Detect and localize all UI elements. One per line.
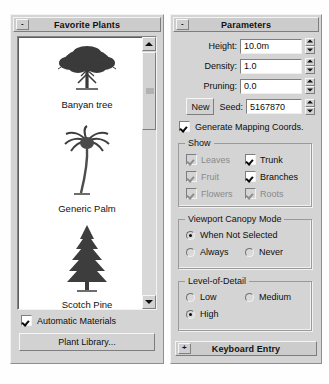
canopy-always-label: Always [200, 247, 229, 257]
seed-field[interactable]: 5167870 [246, 99, 302, 114]
list-item[interactable]: Scotch Pine [18, 223, 156, 310]
plant-parameters-screen: - Favorite Plants [0, 0, 329, 384]
list-item[interactable]: Banyan tree [18, 43, 156, 110]
canopy-always-radio[interactable] [186, 248, 195, 257]
seed-row: New Seed: 5167870 [177, 98, 315, 115]
list-item-label: Banyan tree [18, 99, 156, 110]
plant-list-scrollbar[interactable] [142, 37, 156, 309]
keyboard-entry-rollout-header[interactable]: + Keyboard Entry [175, 341, 317, 356]
viewport-canopy-mode-group: Viewport Canopy Mode When Not Selected A… [178, 219, 312, 269]
seed-label: Seed: [219, 102, 243, 112]
show-fruit-row: Fruit [186, 171, 219, 182]
keyboard-entry-expand-toggle[interactable]: + [178, 343, 191, 354]
show-trunk-row[interactable]: Trunk [245, 154, 283, 165]
lod-low-row[interactable]: Low [186, 292, 217, 302]
favorite-plants-collapse-toggle[interactable]: - [16, 19, 29, 30]
generate-mapping-row[interactable]: Generate Mapping Coords. [179, 121, 304, 132]
height-label: Height: [208, 41, 237, 51]
generate-mapping-checkbox[interactable] [179, 121, 190, 132]
density-field[interactable]: 1.0 [240, 59, 302, 74]
show-branches-checkbox[interactable] [245, 171, 256, 182]
favorite-plants-panel: - Favorite Plants [10, 14, 164, 364]
scroll-up-icon[interactable] [142, 37, 156, 51]
pruning-spinner[interactable] [305, 78, 315, 94]
show-fruit-label: Fruit [201, 172, 219, 182]
show-flowers-checkbox [186, 188, 197, 199]
parameters-rollout-header[interactable]: - Parameters [173, 17, 319, 32]
show-roots-row: Roots [245, 188, 284, 199]
lod-medium-row[interactable]: Medium [245, 292, 291, 302]
height-spinner[interactable] [305, 38, 315, 54]
show-branches-row[interactable]: Branches [245, 171, 298, 182]
canopy-when-not-selected-label: When Not Selected [200, 230, 278, 240]
conifer-tree-icon [57, 223, 117, 295]
automatic-materials-checkbox[interactable] [21, 315, 32, 326]
canopy-when-not-selected-radio[interactable] [186, 231, 195, 240]
favorite-plants-rollout-header[interactable]: - Favorite Plants [13, 17, 161, 32]
scroll-down-icon[interactable] [142, 295, 156, 309]
lod-low-radio[interactable] [186, 293, 195, 302]
lod-low-label: Low [200, 292, 217, 302]
pruning-label: Pruning: [203, 81, 237, 91]
broadleaf-tree-icon [54, 43, 120, 95]
show-leaves-label: Leaves [201, 155, 230, 165]
generate-mapping-label: Generate Mapping Coords. [195, 122, 304, 132]
show-group-title: Show [185, 138, 214, 148]
lod-high-radio[interactable] [186, 310, 195, 319]
show-trunk-label: Trunk [260, 155, 283, 165]
new-seed-button[interactable]: New [186, 98, 214, 115]
scrollbar-thumb[interactable] [142, 52, 156, 130]
show-roots-label: Roots [260, 189, 284, 199]
canopy-always-row[interactable]: Always [186, 247, 229, 257]
canopy-never-row[interactable]: Never [245, 247, 283, 257]
canopy-never-radio[interactable] [245, 248, 254, 257]
seed-spinner[interactable] [305, 99, 315, 115]
density-row: Density: 1.0 [177, 58, 315, 74]
lod-high-row[interactable]: High [186, 309, 219, 319]
list-item[interactable]: Generic Palm [18, 125, 156, 214]
density-label: Density: [204, 61, 237, 71]
parameters-title: Parameters [221, 20, 271, 30]
palm-tree-icon [56, 125, 118, 199]
plant-library-button-label: Plant Library... [58, 337, 115, 347]
keyboard-entry-title: Keyboard Entry [212, 344, 280, 354]
lod-medium-radio[interactable] [245, 293, 254, 302]
show-leaves-checkbox [186, 154, 197, 165]
height-field[interactable]: 10.0m [240, 39, 302, 54]
lod-high-label: High [200, 309, 219, 319]
automatic-materials-label: Automatic Materials [37, 316, 116, 326]
level-of-detail-group: Level-of-Detail Low Medium High [178, 281, 312, 331]
canopy-never-label: Never [259, 247, 283, 257]
lod-medium-label: Medium [259, 292, 291, 302]
favorite-plants-title: Favorite Plants [54, 20, 120, 30]
show-group: Show Leaves Trunk Fruit Branches Flowers [178, 143, 312, 207]
pruning-field[interactable]: 0.0 [240, 79, 302, 94]
scrollbar-grip [146, 88, 154, 95]
parameters-panel: - Parameters Height: 10.0m Density: 1.0 … [170, 14, 322, 364]
canopy-when-not-selected-row[interactable]: When Not Selected [186, 230, 278, 240]
favorite-plants-list[interactable]: Banyan tree [17, 36, 157, 310]
plant-library-button[interactable]: Plant Library... [19, 333, 155, 351]
density-spinner[interactable] [305, 58, 315, 74]
automatic-materials-row[interactable]: Automatic Materials [21, 315, 116, 326]
show-fruit-checkbox [186, 171, 197, 182]
show-branches-label: Branches [260, 172, 298, 182]
list-item-label: Generic Palm [18, 203, 156, 214]
pruning-row: Pruning: 0.0 [177, 78, 315, 94]
show-roots-checkbox [245, 188, 256, 199]
show-trunk-checkbox[interactable] [245, 154, 256, 165]
level-of-detail-title: Level-of-Detail [185, 276, 249, 286]
show-flowers-label: Flowers [201, 189, 233, 199]
parameters-collapse-toggle[interactable]: - [176, 19, 189, 30]
list-item-label: Scotch Pine [18, 299, 156, 310]
show-flowers-row: Flowers [186, 188, 233, 199]
viewport-canopy-mode-title: Viewport Canopy Mode [185, 214, 284, 224]
show-leaves-row: Leaves [186, 154, 230, 165]
height-row: Height: 10.0m [177, 38, 315, 54]
